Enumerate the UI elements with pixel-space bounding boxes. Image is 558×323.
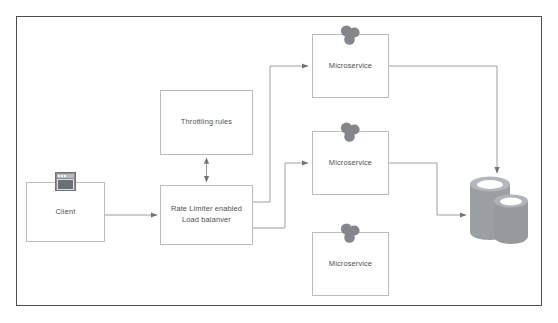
node-microservice-2-label: Microservice [329, 158, 372, 169]
window-icon-dot [64, 175, 66, 177]
node-microservice-3-label: Microservice [329, 259, 372, 270]
window-icon-body [57, 179, 74, 190]
node-client-label: Client [56, 207, 76, 218]
cluster-icon [338, 24, 362, 46]
connector-load-balancer-to-microservice-1 [253, 66, 308, 202]
diagram-canvas: Client Throttling rules Rate Limiter ena… [0, 0, 558, 323]
connector-microservice-1-to-database [389, 66, 497, 173]
node-microservice-1-label: Microservice [329, 61, 372, 72]
database-cylinder-secondary [494, 194, 528, 244]
node-throttling-rules[interactable]: Throttling rules [160, 90, 253, 155]
window-icon-dot [58, 175, 60, 177]
connector-load-balancer-to-microservice-2 [253, 163, 308, 228]
window-icon-dot [61, 175, 63, 177]
connector-layer [0, 0, 558, 323]
connector-microservice-2-to-database [389, 163, 466, 215]
cluster-icon [338, 121, 362, 143]
cluster-icon [338, 222, 362, 244]
node-client[interactable]: Client [26, 182, 105, 242]
database-icon[interactable] [468, 174, 530, 246]
window-icon [55, 172, 76, 191]
node-throttling-rules-label: Throttling rules [181, 117, 232, 128]
node-load-balancer[interactable]: Rate Limiter enabled Load balanver [160, 185, 253, 245]
node-load-balancer-label: Rate Limiter enabled Load balanver [171, 204, 242, 225]
window-icon-titlebar [57, 174, 74, 178]
